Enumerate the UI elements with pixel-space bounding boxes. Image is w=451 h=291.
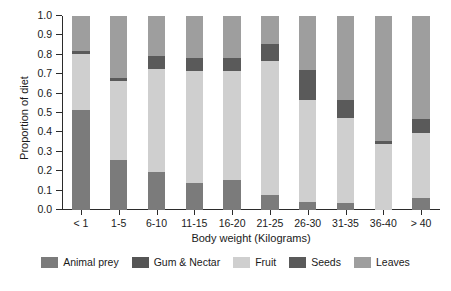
bar-segment[interactable]	[110, 16, 127, 78]
bar-21-25[interactable]	[261, 16, 278, 210]
y-tick: 0.1	[56, 190, 62, 191]
bar-segment[interactable]	[412, 16, 429, 119]
bar-segment[interactable]	[223, 71, 240, 180]
bar-segment[interactable]	[375, 144, 392, 210]
chart-legend: Animal preyGum & NectarFruitSeedsLeaves	[0, 256, 451, 268]
legend-item[interactable]: Gum & Nectar	[132, 256, 221, 268]
x-tick	[346, 210, 347, 215]
bar-segment[interactable]	[261, 61, 278, 196]
bar-segment[interactable]	[375, 141, 392, 144]
bar-16-20[interactable]	[223, 16, 240, 210]
stacked-bar-chart: Proportion of diet 1.00.90.80.70.60.50.4…	[0, 0, 451, 291]
y-axis-title: Proportion of diet	[18, 18, 34, 218]
bar-segment[interactable]	[299, 100, 316, 202]
bar-31-35[interactable]	[337, 16, 354, 210]
y-tick: 0.3	[56, 151, 62, 152]
x-tick	[157, 210, 158, 215]
bar-segment[interactable]	[148, 16, 165, 56]
bar-segment[interactable]	[337, 100, 354, 117]
bar-segment[interactable]	[261, 44, 278, 60]
x-tick-label: 31-35	[332, 217, 359, 229]
x-tick	[119, 210, 120, 215]
x-tick	[421, 210, 422, 215]
bar-segment[interactable]	[412, 133, 429, 198]
bar-segment[interactable]	[72, 110, 89, 210]
bar-segment[interactable]	[261, 195, 278, 210]
legend-label: Leaves	[376, 256, 410, 268]
legend-swatch-icon	[233, 257, 250, 268]
bar-segment[interactable]	[299, 70, 316, 100]
x-tick-label: 11-15	[181, 217, 207, 229]
x-axis-title: Body weight (Kilograms)	[62, 232, 440, 244]
bar-segment[interactable]	[375, 16, 392, 141]
legend-label: Fruit	[255, 256, 276, 268]
y-tick: 0.0	[56, 209, 62, 210]
legend-swatch-icon	[354, 257, 371, 268]
bar-segment[interactable]	[148, 172, 165, 210]
legend-item[interactable]: Seeds	[289, 256, 341, 268]
bar-segment[interactable]	[72, 54, 89, 110]
bar-segment[interactable]	[186, 183, 203, 210]
x-tick-label: < 1	[73, 217, 88, 229]
legend-label: Gum & Nectar	[154, 256, 221, 268]
bar-segment[interactable]	[337, 203, 354, 210]
bar-segment[interactable]	[412, 198, 429, 210]
bar-40[interactable]	[412, 16, 429, 210]
x-tick	[270, 210, 271, 215]
bar-segment[interactable]	[110, 160, 127, 210]
bar-26-30[interactable]	[299, 16, 316, 210]
legend-swatch-icon	[132, 257, 149, 268]
bar-1[interactable]	[72, 16, 89, 210]
bar-segment[interactable]	[148, 56, 165, 70]
bar-6-10[interactable]	[148, 16, 165, 210]
bar-segment[interactable]	[412, 119, 429, 134]
bar-36-40[interactable]	[375, 16, 392, 210]
x-tick-label: 36-40	[370, 217, 397, 229]
legend-swatch-icon	[289, 257, 306, 268]
y-tick-label: 0.3	[37, 145, 52, 157]
y-tick: 0.2	[56, 170, 62, 171]
y-tick-label: 0.1	[37, 184, 52, 196]
bar-segment[interactable]	[261, 16, 278, 44]
bar-1-5[interactable]	[110, 16, 127, 210]
x-tick	[194, 210, 195, 215]
y-tick: 0.7	[56, 73, 62, 74]
plot-area: 1.00.90.80.70.60.50.40.30.20.10.0 < 11-5…	[62, 16, 440, 210]
legend-item[interactable]: Fruit	[233, 256, 276, 268]
bar-segment[interactable]	[186, 71, 203, 183]
legend-swatch-icon	[41, 257, 58, 268]
legend-item[interactable]: Animal prey	[41, 256, 118, 268]
x-tick-label: 21-25	[256, 217, 283, 229]
bar-segment[interactable]	[299, 16, 316, 70]
y-tick: 0.4	[56, 131, 62, 132]
x-tick-label: 26-30	[294, 217, 321, 229]
x-tick-label: > 40	[411, 217, 432, 229]
bar-segment[interactable]	[223, 58, 240, 72]
y-tick-label: 0.2	[37, 164, 52, 176]
y-tick: 0.5	[56, 112, 62, 113]
bar-segment[interactable]	[110, 81, 127, 160]
y-tick: 0.8	[56, 54, 62, 55]
y-tick-label: 0.8	[37, 48, 52, 60]
bar-segment[interactable]	[223, 16, 240, 58]
x-tick-label: 1-5	[111, 217, 126, 229]
bar-segment[interactable]	[223, 180, 240, 210]
y-tick: 0.9	[56, 34, 62, 35]
y-tick: 0.6	[56, 93, 62, 94]
y-tick: 1.0	[56, 15, 62, 16]
bar-segment[interactable]	[337, 118, 354, 203]
legend-item[interactable]: Leaves	[354, 256, 410, 268]
y-tick-label: 0.6	[37, 87, 52, 99]
bar-segment[interactable]	[186, 16, 203, 58]
bar-11-15[interactable]	[186, 16, 203, 210]
bar-segment[interactable]	[148, 69, 165, 172]
bar-segment[interactable]	[72, 51, 89, 54]
legend-label: Animal prey	[63, 256, 118, 268]
x-tick	[308, 210, 309, 215]
y-tick-label: 0.5	[37, 106, 52, 118]
bar-segment[interactable]	[186, 58, 203, 72]
bar-segment[interactable]	[337, 16, 354, 100]
bar-segment[interactable]	[72, 16, 89, 51]
bar-segment[interactable]	[110, 78, 127, 81]
bar-segment[interactable]	[299, 202, 316, 210]
